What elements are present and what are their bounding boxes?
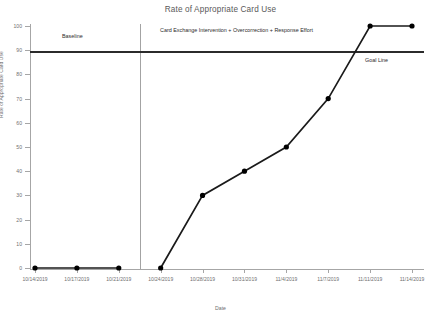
y-tick-label: 50 <box>0 144 22 150</box>
y-tick <box>25 220 30 221</box>
chart-title: Rate of Appropriate Card Use <box>0 5 441 14</box>
x-tick-label: 10/24/2019 <box>139 276 183 282</box>
y-tick-label: 100 <box>0 23 22 29</box>
data-point <box>368 23 373 28</box>
y-tick-label: 30 <box>0 192 22 198</box>
data-point <box>409 23 414 28</box>
x-tick <box>203 269 204 273</box>
data-point <box>326 96 331 101</box>
x-tick <box>286 269 287 273</box>
x-tick-label: 11/4/2019 <box>264 276 308 282</box>
x-tick-label: 10/14/2019 <box>13 276 57 282</box>
y-tick <box>25 147 30 148</box>
goal-line <box>30 51 424 53</box>
intervention-phase-label: Card Exchange Intervention + Overcorrect… <box>160 27 313 33</box>
phase-change-line <box>140 24 141 269</box>
x-tick-label: 11/14/2019 <box>390 276 434 282</box>
x-tick <box>370 269 371 273</box>
x-tick-label: 11/7/2019 <box>306 276 350 282</box>
x-tick <box>77 269 78 273</box>
y-tick-label: 40 <box>0 168 22 174</box>
y-tick-label: 10 <box>0 241 22 247</box>
data-point <box>200 193 205 198</box>
data-point <box>242 169 247 174</box>
x-tick-label: 11/11/2019 <box>348 276 392 282</box>
x-tick-label: 10/28/2019 <box>181 276 225 282</box>
y-tick <box>25 268 30 269</box>
data-point <box>284 144 289 149</box>
y-tick <box>25 123 30 124</box>
y-tick-label: 0 <box>0 265 22 271</box>
y-tick <box>25 195 30 196</box>
y-tick <box>25 244 30 245</box>
y-tick-label: 80 <box>0 71 22 77</box>
y-tick <box>25 99 30 100</box>
y-tick <box>25 171 30 172</box>
y-tick-label: 60 <box>0 120 22 126</box>
y-tick-label: 20 <box>0 217 22 223</box>
y-axis-title: Rate of Appropriate Card Use <box>0 51 4 118</box>
x-tick <box>244 269 245 273</box>
y-axis-line <box>30 24 31 270</box>
x-tick <box>161 269 162 273</box>
x-axis-line <box>30 269 424 270</box>
chart-container: Rate of Appropriate Card Use Rate of App… <box>0 0 441 326</box>
goal-line-label: Goal Line <box>365 57 388 63</box>
x-tick-label: 10/31/2019 <box>222 276 266 282</box>
y-tick-label: 70 <box>0 96 22 102</box>
x-tick <box>35 269 36 273</box>
x-tick <box>412 269 413 273</box>
y-tick <box>25 74 30 75</box>
x-tick-label: 10/17/2019 <box>55 276 99 282</box>
y-tick <box>25 26 30 27</box>
x-tick <box>328 269 329 273</box>
y-tick-label: 90 <box>0 47 22 53</box>
baseline-phase-label: Baseline <box>62 33 83 39</box>
x-tick-label: 10/21/2019 <box>97 276 141 282</box>
x-tick <box>119 269 120 273</box>
x-axis-title: Date <box>0 305 441 311</box>
